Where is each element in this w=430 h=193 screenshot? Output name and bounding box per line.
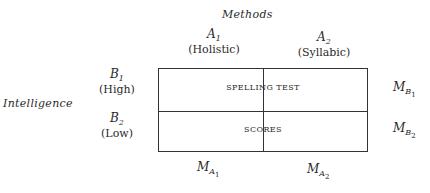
cell-label-line2: SCORES: [159, 125, 367, 134]
column-level-symbol: A1: [182, 27, 246, 43]
row-level-symbol: B2: [92, 111, 142, 127]
column-level-symbol: A2: [292, 30, 356, 46]
row-level-label: (High): [92, 83, 142, 96]
column-factor-title: Methods: [222, 8, 273, 21]
row-mean-b2: MB2: [393, 121, 416, 140]
column-mean-a2: MA2: [307, 162, 330, 181]
row-level-b2: B2 (Low): [92, 111, 142, 140]
column-level-a1: A1 (Holistic): [182, 27, 246, 56]
row-level-b1: B1 (High): [92, 67, 142, 96]
column-mean-a1: MA1: [197, 160, 220, 179]
factorial-design-grid: SPELLING TEST SCORES: [158, 68, 368, 152]
cell-label-line1: SPELLING TEST: [159, 83, 367, 92]
row-level-label: (Low): [92, 127, 142, 140]
column-level-label: (Syllabic): [292, 46, 356, 59]
column-level-a2: A2 (Syllabic): [292, 30, 356, 59]
row-factor-title: Intelligence: [3, 97, 73, 110]
row-level-symbol: B1: [92, 67, 142, 83]
row-mean-b1: MB1: [393, 80, 416, 99]
column-divider: [263, 69, 264, 151]
column-level-label: (Holistic): [182, 43, 246, 56]
